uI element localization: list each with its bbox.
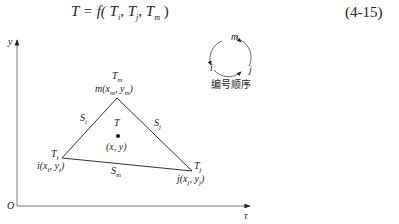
legend-m: m [231,31,238,42]
edge-sj-label: Sj [154,117,161,131]
numbering-order-icon [210,37,251,77]
node-m-temp: Tm [112,70,123,84]
legend-j: j [249,64,252,75]
node-m-coord: m(xm, ym) [95,83,133,97]
triangle [62,98,192,171]
y-axis-label: y [8,36,12,47]
node-j-coord: j(xj, yj) [177,173,204,187]
node-i-coord: i(xi, yi) [37,160,64,174]
x-axis-label: τ [244,210,248,221]
interior-temp: T [114,117,120,128]
origin-label: O [7,200,14,211]
node-j-temp: Tj [194,160,202,174]
edge-si-label: Si [80,112,87,126]
interior-point [116,134,120,138]
triangle-element-diagram [0,0,399,224]
interior-coord: (x, y) [106,141,127,152]
legend-i: i [210,62,213,73]
edge-sm-label: Sm [111,165,121,179]
legend-caption: 编号顺序 [211,76,251,91]
